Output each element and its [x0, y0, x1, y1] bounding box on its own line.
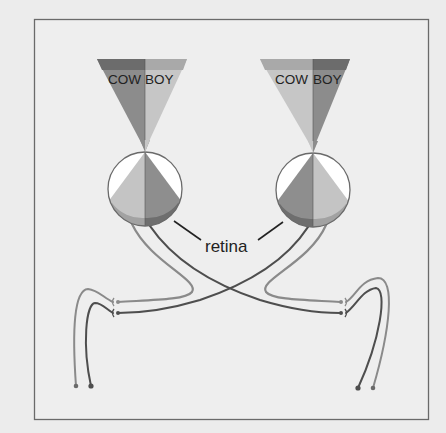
left-synapse-upper	[116, 300, 120, 304]
binocular-vision-diagram: COW BOY COW BOY	[0, 0, 446, 433]
right-synapse-upper	[339, 300, 343, 304]
right-synapse-lower	[339, 311, 343, 315]
right-nerve-end-inner	[355, 385, 360, 390]
left-synapse-lower	[116, 311, 120, 315]
left-object-text-cow: COW	[108, 72, 141, 87]
left-nerve-end-inner	[88, 383, 93, 388]
right-nerve-end-outer	[371, 386, 376, 391]
left-nerve-end-outer	[74, 384, 79, 389]
right-object-text-cow: COW	[275, 72, 308, 87]
left-object-text-boy: BOY	[145, 72, 174, 87]
retina-label: retina	[205, 237, 248, 256]
right-object-text-boy: BOY	[313, 72, 342, 87]
